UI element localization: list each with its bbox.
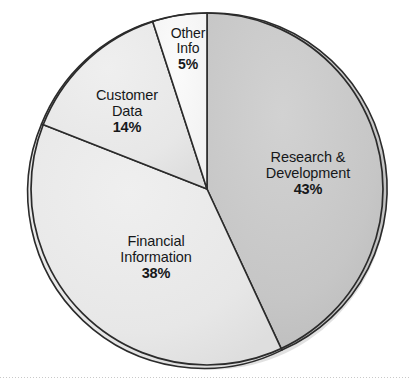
slice-label-financial-information: Financial Information 38%: [92, 234, 220, 282]
slice-label-name-2: Info: [160, 41, 216, 56]
page-divider-rule: [0, 377, 410, 378]
slice-label-name: Customer: [74, 88, 180, 104]
slice-label-name-2: Information: [92, 250, 220, 266]
slice-label-name: Financial: [92, 234, 220, 250]
slice-label-other-info: Other Info 5%: [160, 26, 216, 72]
slice-label-name-2: Data: [74, 104, 180, 120]
slice-label-value: 38%: [92, 266, 220, 282]
slice-label-name-2: Development: [246, 166, 370, 182]
slice-label-name: Research &: [246, 150, 370, 166]
slice-label-customer-data: Customer Data 14%: [74, 88, 180, 136]
slice-label-value: 43%: [246, 182, 370, 198]
pie-chart-figure: Research & Development 43% Financial Inf…: [0, 0, 410, 386]
slice-label-name: Other: [160, 26, 216, 41]
slice-label-value: 5%: [160, 57, 216, 72]
slice-label-research-development: Research & Development 43%: [246, 150, 370, 198]
slice-label-value: 14%: [74, 120, 180, 136]
